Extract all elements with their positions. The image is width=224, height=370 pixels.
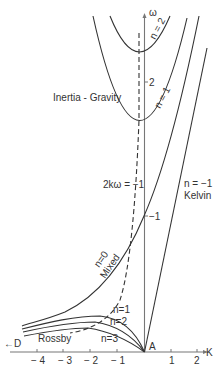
inertia-gravity-label: Inertia - Gravity — [53, 92, 121, 103]
omega-axis-arrow-icon — [143, 13, 147, 18]
rossby-n2-label: n=2 — [110, 316, 127, 327]
rossby-label: Rossby — [38, 333, 71, 344]
rossby-n3-label: n=3 — [101, 333, 118, 344]
x-tick-minus4: − 4 — [31, 355, 46, 366]
inertia-gravity-n1-curve — [93, 16, 187, 121]
y-tick-2: 2 — [149, 77, 155, 88]
arrow-d-label: ←D — [4, 338, 21, 349]
x-tick-minus2: − 2 — [84, 355, 99, 366]
x-tick-2: 2 — [194, 355, 200, 366]
rossby-n1-label: n=1 — [113, 304, 130, 315]
ig-n1-label: n = 1 — [152, 85, 172, 110]
dashed-curve-label: 2kω = −1 — [103, 179, 145, 190]
origin-label-a: A — [149, 341, 156, 352]
k-axis-label: K — [206, 347, 213, 358]
omega-axis-label: ω — [149, 7, 157, 18]
equatorial-wave-dispersion-diagram: − 4 − 3 − 2 − 1 1 2 K ω −1 2 A ←D Inerti… — [0, 0, 224, 370]
x-tick-1: 1 — [169, 355, 175, 366]
mixed-n0-curve — [22, 16, 199, 326]
kelvin-label: Kelvin — [184, 190, 211, 201]
kelvin-n-label: n = −1 — [184, 178, 213, 189]
x-tick-minus1: − 1 — [111, 355, 126, 366]
y-tick-minus1: −1 — [149, 211, 161, 222]
x-tick-minus3: − 3 — [58, 355, 73, 366]
